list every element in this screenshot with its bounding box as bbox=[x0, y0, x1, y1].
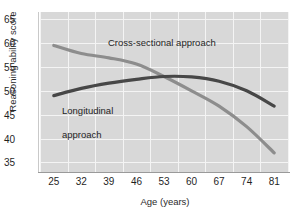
x-tick-label: 39 bbox=[94, 176, 124, 187]
y-tick-label: 35 bbox=[4, 157, 38, 168]
gridline-vertical bbox=[288, 12, 289, 172]
x-tick-label: 60 bbox=[177, 176, 207, 187]
x-tick-label: 81 bbox=[259, 176, 289, 187]
annotation-longitudinal: Longitudinal approach bbox=[62, 93, 113, 141]
x-tick-label: 25 bbox=[39, 176, 69, 187]
y-tick-label: 65 bbox=[4, 14, 38, 25]
y-tick-label: 40 bbox=[4, 133, 38, 144]
annotation-cross-sectional: Cross-sectional approach bbox=[108, 37, 216, 49]
x-axis-title: Age (years) bbox=[40, 196, 290, 207]
y-tick-label: 45 bbox=[4, 109, 38, 120]
y-tick-label: 50 bbox=[4, 85, 38, 96]
chart-container: Reasoning ability score 35404550556065 2… bbox=[0, 0, 300, 214]
x-tick-label: 53 bbox=[149, 176, 179, 187]
y-axis-line bbox=[38, 12, 39, 173]
annotation-longitudinal-line1: Longitudinal bbox=[62, 105, 113, 116]
data-series-layer bbox=[40, 12, 288, 172]
y-tick-label: 55 bbox=[4, 61, 38, 72]
x-axis-line bbox=[38, 172, 290, 173]
x-tick-label: 74 bbox=[232, 176, 262, 187]
x-tick-label: 67 bbox=[204, 176, 234, 187]
x-tick-label: 32 bbox=[66, 176, 96, 187]
annotation-longitudinal-line2: approach bbox=[62, 129, 102, 140]
x-tick-label: 46 bbox=[121, 176, 151, 187]
y-axis-tick-labels: 35404550556065 bbox=[6, 0, 38, 214]
y-tick-label: 60 bbox=[4, 38, 38, 49]
